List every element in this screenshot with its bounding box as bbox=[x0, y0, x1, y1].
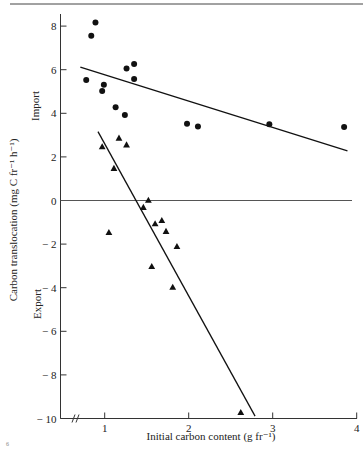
x-axis-title: Initial carbon content (g fr⁻¹) bbox=[147, 430, 276, 443]
data-markers bbox=[83, 19, 347, 415]
circle-marker-icon bbox=[83, 77, 89, 83]
circle-marker-icon bbox=[341, 124, 347, 130]
circle-marker-icon bbox=[101, 82, 107, 88]
triangle-marker-icon bbox=[106, 229, 113, 235]
y-tick-label: 8 bbox=[51, 20, 57, 32]
triangle-marker-icon bbox=[169, 284, 176, 290]
triangle-marker-icon bbox=[148, 263, 155, 269]
circle-marker-icon bbox=[131, 76, 137, 82]
y-tick-label: − 4 bbox=[42, 282, 57, 294]
x-tick-label: 4 bbox=[354, 422, 360, 434]
circle-marker-icon bbox=[195, 124, 201, 130]
axes: 86420− 2− 4− 6− 8− 101234 bbox=[37, 14, 360, 434]
y-tick-label: 0 bbox=[51, 195, 57, 207]
circle-marker-icon bbox=[131, 61, 137, 67]
regression-line-export bbox=[98, 132, 255, 416]
corner-mark: 6 bbox=[6, 441, 9, 447]
circle-marker-icon bbox=[122, 112, 128, 118]
circle-marker-icon bbox=[99, 88, 105, 94]
y-tick-label: − 8 bbox=[42, 369, 57, 381]
y-axis-title: Carbon translocation (mg C fr⁻¹ h⁻¹) bbox=[7, 138, 20, 301]
triangle-marker-icon bbox=[140, 204, 147, 210]
circle-marker-icon bbox=[92, 19, 98, 25]
y-tick-label: 6 bbox=[51, 64, 57, 76]
y-tick-label: 4 bbox=[51, 107, 57, 119]
circle-marker-icon bbox=[124, 65, 130, 71]
chart: Carbon translocation (mg C fr⁻¹ h⁻¹) Imp… bbox=[0, 0, 363, 451]
y-tick-label: − 10 bbox=[37, 413, 57, 425]
fit-lines bbox=[80, 67, 347, 416]
triangle-marker-icon bbox=[237, 409, 244, 415]
x-tick-label: 1 bbox=[102, 422, 108, 434]
triangle-marker-icon bbox=[116, 135, 123, 141]
circle-marker-icon bbox=[88, 33, 94, 39]
y-tick-label: − 2 bbox=[42, 238, 56, 250]
y-tick-label: − 6 bbox=[42, 325, 57, 337]
triangle-marker-icon bbox=[163, 228, 170, 234]
triangle-marker-icon bbox=[145, 197, 152, 203]
import-label: Import bbox=[29, 91, 41, 121]
circle-marker-icon bbox=[113, 104, 119, 110]
triangle-marker-icon bbox=[152, 220, 159, 226]
triangle-marker-icon bbox=[158, 217, 165, 223]
y-tick-label: 2 bbox=[51, 151, 57, 163]
triangle-marker-icon bbox=[123, 141, 130, 147]
triangle-marker-icon bbox=[174, 243, 181, 249]
circle-marker-icon bbox=[266, 121, 272, 127]
circle-marker-icon bbox=[184, 121, 190, 127]
